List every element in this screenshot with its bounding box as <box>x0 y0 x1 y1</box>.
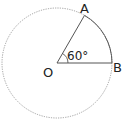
angle-label: 60° <box>67 49 88 63</box>
sector-arc <box>85 15 113 63</box>
sector-diagram: A B O 60° <box>0 0 126 121</box>
point-b-label: B <box>113 60 122 75</box>
point-a-label: A <box>80 1 89 16</box>
center-o-label: O <box>43 65 53 80</box>
